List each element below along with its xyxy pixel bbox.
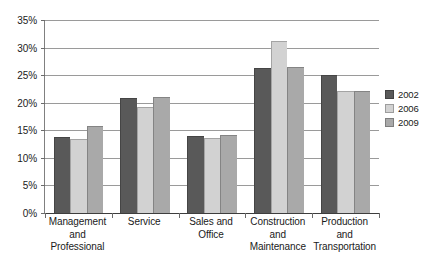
bar-cluster bbox=[187, 20, 237, 213]
bar-2002-5 bbox=[321, 75, 338, 213]
legend-label: 2002 bbox=[398, 89, 419, 100]
bar-2006-5 bbox=[337, 91, 354, 213]
legend-item-2006[interactable]: 2006 bbox=[385, 102, 434, 115]
bar-2002-3 bbox=[187, 136, 204, 213]
chart-legend: 200220062009 bbox=[385, 88, 434, 130]
bar-2002-1 bbox=[54, 137, 71, 213]
bar-cluster bbox=[120, 20, 170, 213]
bar-2006-1 bbox=[70, 139, 87, 213]
y-axis-tick-label: 35% bbox=[17, 15, 37, 26]
x-axis-category-labels: ManagementandProfessionalServiceSales an… bbox=[44, 216, 378, 270]
bar-chart: 0%5%10%15%20%25%30%35% ManagementandProf… bbox=[0, 0, 434, 270]
legend-item-2002[interactable]: 2002 bbox=[385, 88, 434, 101]
legend-label: 2009 bbox=[398, 117, 419, 128]
plot-area bbox=[44, 20, 379, 214]
bar-2006-4 bbox=[271, 41, 288, 213]
y-axis-tick-label: 0% bbox=[23, 208, 37, 219]
bar-cluster bbox=[254, 20, 304, 213]
category-label-line: and bbox=[303, 229, 386, 242]
y-axis-tick-label: 5% bbox=[23, 180, 37, 191]
y-axis-tick-label: 20% bbox=[17, 97, 37, 108]
category-label-line: Professional bbox=[36, 241, 119, 254]
legend-swatch-icon bbox=[385, 118, 394, 127]
legend-swatch-icon bbox=[385, 104, 394, 113]
y-axis-tick-label: 30% bbox=[17, 42, 37, 53]
bar-cluster bbox=[321, 20, 371, 213]
bar-2009-3 bbox=[220, 135, 237, 213]
y-axis-tick-label: 25% bbox=[17, 70, 37, 81]
legend-label: 2006 bbox=[398, 103, 419, 114]
bar-2009-2 bbox=[153, 97, 170, 213]
bars-layer bbox=[45, 20, 379, 213]
legend-item-2009[interactable]: 2009 bbox=[385, 116, 434, 129]
bar-cluster bbox=[54, 20, 104, 213]
legend-swatch-icon bbox=[385, 90, 394, 99]
bar-2009-1 bbox=[87, 126, 104, 213]
bar-2009-5 bbox=[354, 91, 371, 213]
bar-2006-3 bbox=[204, 138, 221, 213]
bar-2006-2 bbox=[137, 107, 154, 213]
x-axis-category-label: ProductionandTransportation bbox=[303, 216, 386, 254]
y-axis-tick-label: 15% bbox=[17, 125, 37, 136]
bar-2002-2 bbox=[120, 98, 137, 213]
y-axis-tick-label: 10% bbox=[17, 152, 37, 163]
bar-2002-4 bbox=[254, 68, 271, 213]
category-label-line: and bbox=[36, 229, 119, 242]
category-label-line: Production bbox=[303, 216, 386, 229]
category-label-line: Transportation bbox=[303, 241, 386, 254]
bar-2009-4 bbox=[287, 67, 304, 213]
